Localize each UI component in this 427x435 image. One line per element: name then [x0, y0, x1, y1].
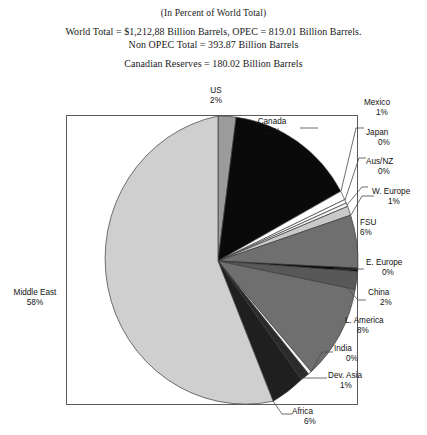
pie-label-e-europe-value: 0%: [366, 268, 402, 278]
pie-label-africa-value: 6%: [292, 417, 316, 427]
pie-label-dev-asia: Dev. Asia 1%: [328, 371, 362, 391]
header-totals-line-1: World Total = $1,212,88 Billion Barrels,…: [0, 25, 427, 38]
pie-label-india: India 0%: [334, 344, 358, 364]
pie-label-us: US 2%: [196, 86, 236, 106]
pie-label-fsu-name: FSU: [360, 218, 376, 228]
pie-label-ausnz-name: Aus/NZ: [366, 157, 393, 167]
pie-label-ausnz: Aus/NZ 0%: [366, 157, 393, 177]
pie-label-e-europe: E. Europe 0%: [366, 258, 402, 278]
pie-label-dev-asia-value: 1%: [328, 381, 362, 391]
header-totals-line-2: Non OPEC Total = 393.87 Billion Barrels: [0, 38, 427, 51]
pie-label-china: China 2%: [368, 288, 392, 308]
pie-label-japan-value: 0%: [366, 138, 390, 148]
pie-label-mexico-value: 1%: [364, 108, 390, 118]
pie-label-mexico-name: Mexico: [364, 98, 390, 108]
header-totals-line-3: Canadian Reserves = 180.02 Billion Barre…: [0, 57, 427, 70]
pie-label-canada: Canada 15%: [246, 117, 298, 137]
pie-label-fsu: FSU 6%: [360, 218, 376, 238]
pie-label-w-europe: W. Europe 1%: [372, 187, 410, 207]
pie-label-us-value: 2%: [196, 96, 236, 106]
pie-label-china-value: 2%: [368, 298, 392, 308]
pie-label-india-value: 0%: [334, 354, 358, 364]
pie-label-middle-east-name: Middle East: [6, 288, 64, 298]
pie-label-middle-east-value: 58%: [6, 298, 64, 308]
pie-label-japan-name: Japan: [366, 128, 390, 138]
pie-label-l-america: L. America 8%: [345, 316, 384, 336]
pie-label-fsu-value: 6%: [360, 228, 376, 238]
pie-label-africa-name: Africa: [292, 407, 316, 417]
pie-label-w-europe-name: W. Europe: [372, 187, 410, 197]
pie-label-africa: Africa 6%: [292, 407, 316, 427]
pie-label-l-america-name: L. America: [345, 316, 384, 326]
pie-label-e-europe-name: E. Europe: [366, 258, 402, 268]
pie-label-middle-east: Middle East 58%: [6, 288, 64, 308]
plot-frame: [66, 115, 358, 405]
pie-label-dev-asia-name: Dev. Asia: [328, 371, 362, 381]
pie-label-us-name: US: [196, 86, 236, 96]
pie-label-china-name: China: [368, 288, 392, 298]
pie-label-mexico: Mexico 1%: [364, 98, 390, 118]
pie-label-india-name: India: [334, 344, 358, 354]
chart-header: (In Percent of World Total) World Total …: [0, 0, 427, 70]
pie-label-l-america-value: 8%: [345, 326, 384, 336]
header-subtitle: (In Percent of World Total): [0, 8, 427, 18]
pie-label-ausnz-value: 0%: [366, 167, 393, 177]
pie-label-canada-value: 15%: [246, 127, 298, 137]
pie-label-w-europe-value: 1%: [372, 197, 410, 207]
pie-label-canada-name: Canada: [246, 117, 298, 127]
pie-label-japan: Japan 0%: [366, 128, 390, 148]
